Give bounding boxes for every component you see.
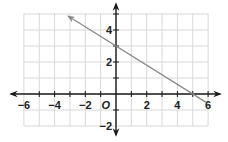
- coordinate-plane: −6−4−2246−224O: [0, 0, 228, 142]
- x-tick-label: 2: [144, 99, 150, 111]
- plotted-line: [68, 16, 205, 102]
- origin-label: O: [101, 99, 110, 111]
- x-tick-label: −2: [79, 99, 92, 111]
- x-tick-label: −6: [18, 99, 31, 111]
- y-tick-label: 4: [106, 24, 113, 36]
- x-tick-label: 6: [205, 99, 211, 111]
- axes: [11, 4, 220, 135]
- x-tick-label: −4: [48, 99, 61, 111]
- y-tick-label: 2: [106, 56, 112, 68]
- y-tick-label: −2: [99, 120, 112, 132]
- x-tick-label: 4: [174, 99, 181, 111]
